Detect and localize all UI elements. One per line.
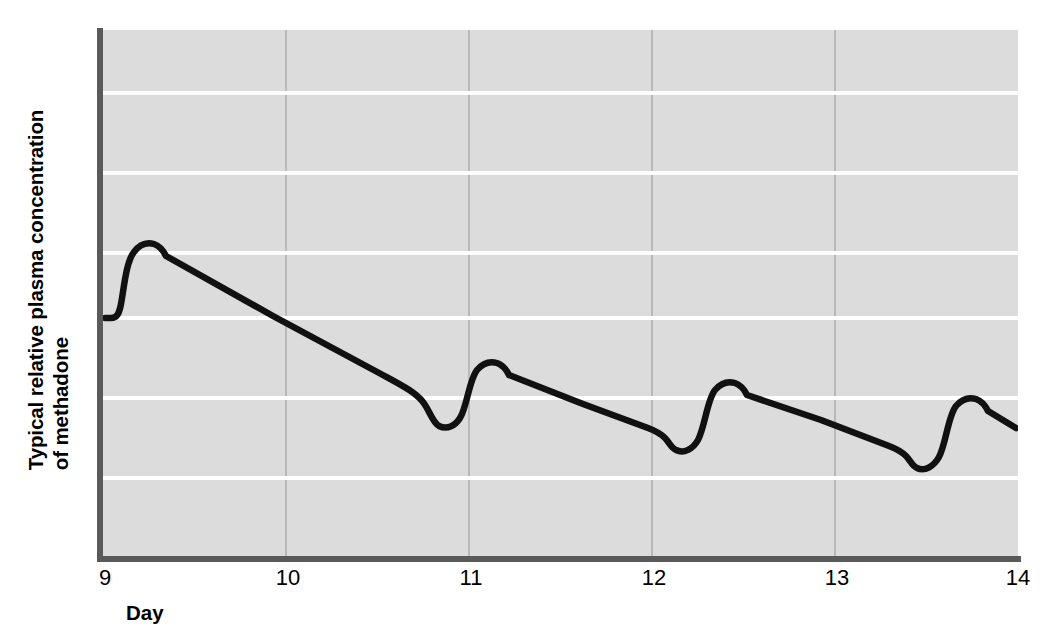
x-tick-label-13: 13 (825, 565, 849, 591)
y-axis-spine (97, 28, 103, 562)
x-tick-label-12: 12 (642, 565, 666, 591)
x-axis-spine (97, 556, 1021, 562)
y-axis-label: Typical relative plasma concentration of… (23, 110, 73, 471)
plot-svg (103, 30, 1018, 558)
chart-figure: Typical relative plasma concentration of… (0, 0, 1063, 642)
x-tick-label-9: 9 (99, 565, 111, 591)
y-axis-label-line-2: of methadone (48, 110, 73, 471)
plot-area (103, 30, 1018, 558)
concentration-curve (105, 243, 1016, 469)
x-axis-label: Day (126, 601, 164, 625)
x-tick-label-11: 11 (460, 565, 483, 591)
x-tick-label-14: 14 (1006, 565, 1030, 591)
y-axis-label-line-1: Typical relative plasma concentration (23, 110, 48, 471)
x-tick-label-10: 10 (276, 565, 300, 591)
horizontal-gridlines (103, 93, 1018, 478)
y-axis-label-container: Typical relative plasma concentration of… (0, 0, 96, 580)
x-axis-tick-labels: 9 10 11 12 13 14 (0, 565, 1063, 599)
